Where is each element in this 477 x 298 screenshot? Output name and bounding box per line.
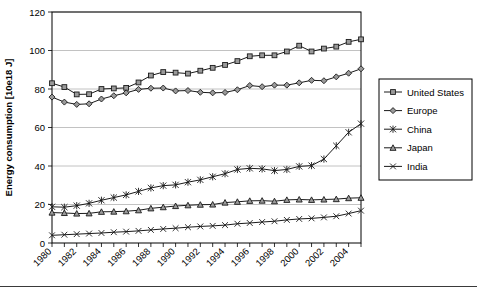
marker-square — [111, 86, 116, 91]
legend-item-india[interactable]: India — [384, 161, 428, 172]
x-axis-tick-label: 1984 — [80, 246, 103, 269]
x-axis-tick-label: 1988 — [130, 246, 153, 269]
marker-square — [235, 59, 240, 64]
marker-square — [148, 73, 153, 78]
legend-item-label: United States — [407, 87, 464, 98]
marker-diamond — [49, 94, 55, 100]
legend-item-china[interactable]: China — [384, 124, 433, 135]
series-united-states — [50, 37, 364, 97]
marker-diamond — [333, 74, 339, 80]
marker-diamond — [284, 82, 290, 88]
marker-square — [309, 49, 314, 54]
marker-diamond — [358, 66, 364, 72]
x-axis-tick-label: 1986 — [105, 246, 128, 269]
energy-consumption-line-chart: 0204060801001201980198219841986198819901… — [0, 0, 477, 298]
legend-item-label: China — [407, 124, 433, 135]
marker-square — [173, 70, 178, 75]
legend-item-japan[interactable]: Japan — [384, 142, 433, 153]
series-japan — [49, 195, 364, 216]
marker-square — [346, 39, 351, 44]
marker-diamond — [247, 83, 253, 89]
marker-diamond — [197, 89, 203, 95]
marker-square — [297, 43, 302, 48]
series-europe — [49, 66, 364, 108]
y-axis-tick-label: 80 — [34, 84, 45, 95]
y-axis-tick-label: 120 — [29, 7, 45, 18]
marker-diamond — [271, 82, 277, 88]
marker-square — [50, 81, 55, 86]
marker-square — [87, 92, 92, 97]
marker-square — [322, 46, 327, 51]
marker-diamond — [346, 70, 352, 76]
marker-square — [272, 53, 277, 58]
marker-diamond — [111, 93, 117, 99]
y-axis-title: Energy consumption [10e18 J] — [3, 59, 14, 197]
marker-diamond — [296, 80, 302, 86]
chart-figure: 0204060801001201980198219841986198819901… — [0, 0, 477, 298]
marker-diamond — [148, 85, 154, 91]
marker-diamond — [86, 101, 92, 107]
marker-square — [260, 53, 265, 58]
series-line — [52, 39, 361, 94]
legend-item-label: Europe — [407, 105, 438, 116]
x-axis-tick-label: 1980 — [31, 246, 54, 269]
marker-square — [74, 92, 79, 97]
marker-diamond — [390, 108, 396, 114]
marker-square — [136, 80, 141, 85]
marker-diamond — [234, 87, 240, 93]
marker-square — [161, 70, 166, 75]
x-axis-tick-label: 2000 — [278, 246, 301, 269]
marker-diamond — [160, 85, 166, 91]
legend-item-label: Japan — [407, 142, 433, 153]
marker-diamond — [321, 78, 327, 84]
marker-diamond — [210, 90, 216, 96]
marker-square — [334, 44, 339, 49]
marker-square — [210, 65, 215, 70]
marker-diamond — [74, 101, 80, 107]
marker-square — [391, 90, 396, 95]
marker-diamond — [309, 77, 315, 83]
legend-item-europe[interactable]: Europe — [384, 105, 438, 116]
y-axis-tick-label: 100 — [29, 45, 45, 56]
legend-item-united-states[interactable]: United States — [384, 87, 464, 98]
marker-diamond — [98, 96, 104, 102]
marker-diamond — [222, 89, 228, 95]
marker-diamond — [136, 86, 142, 92]
x-axis-tick-label: 1992 — [179, 246, 202, 269]
marker-square — [198, 68, 203, 73]
x-axis-tick-label: 2002 — [303, 246, 326, 269]
marker-square — [99, 87, 104, 92]
x-axis-tick-label: 1990 — [154, 246, 177, 269]
marker-diamond — [61, 99, 67, 105]
series-china — [49, 120, 364, 211]
y-axis-tick-label: 20 — [34, 199, 45, 210]
marker-square — [186, 71, 191, 76]
marker-square — [223, 63, 228, 68]
marker-square — [62, 85, 67, 90]
series-line — [52, 198, 361, 214]
y-axis-tick-label: 40 — [34, 161, 45, 172]
marker-diamond — [185, 88, 191, 94]
x-axis-tick-label: 1994 — [204, 246, 227, 269]
series-line — [52, 124, 361, 208]
marker-diamond — [123, 90, 129, 96]
y-axis-tick-label: 60 — [34, 122, 45, 133]
x-axis-tick-label: 1996 — [228, 246, 251, 269]
marker-square — [247, 54, 252, 59]
x-axis-tick-label: 2004 — [327, 246, 350, 269]
marker-square — [359, 37, 364, 42]
x-axis-tick-label: 1998 — [253, 246, 276, 269]
legend-item-label: India — [407, 161, 428, 172]
x-axis-tick-label: 1982 — [55, 246, 78, 269]
marker-square — [284, 49, 289, 54]
